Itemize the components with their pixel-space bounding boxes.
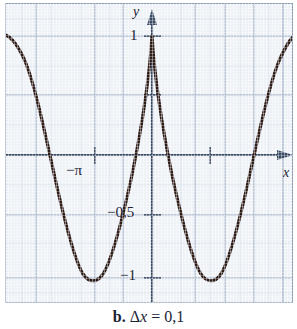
caption-delta: Δ: [130, 308, 140, 325]
y-tick-label-neg-1: −1: [120, 268, 136, 283]
caption-variable: x: [140, 308, 147, 325]
plot-area: [5, 3, 293, 303]
x-tick-label-neg-pi: −π: [66, 163, 82, 178]
y-tick-label-1: 1: [130, 28, 138, 43]
figure-container: y x 1 −0,5 −1 −π b. Δx = 0,1: [0, 0, 297, 329]
caption-value: = 0,1: [151, 308, 184, 325]
plot-border: [5, 3, 293, 303]
y-tick-label-neg-0-5: −0,5: [107, 205, 134, 220]
caption-letter: b.: [113, 308, 126, 325]
x-axis-label: x: [283, 166, 289, 180]
y-axis-label: y: [133, 5, 139, 19]
figure-caption: b. Δx = 0,1: [0, 308, 297, 326]
